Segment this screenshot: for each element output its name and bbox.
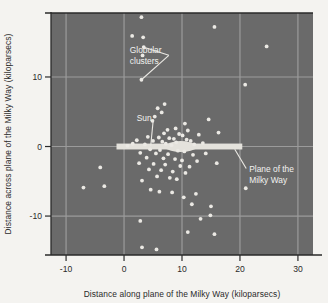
data-point	[147, 168, 151, 172]
data-point	[145, 156, 149, 160]
data-point	[175, 177, 179, 181]
data-point	[149, 188, 153, 192]
data-point	[180, 159, 184, 163]
data-point	[170, 191, 174, 195]
data-point	[167, 136, 171, 140]
data-point	[160, 140, 164, 144]
data-point	[160, 111, 164, 115]
data-point	[244, 186, 248, 190]
data-point	[156, 106, 160, 110]
data-point	[215, 161, 219, 165]
x-tick-label: 0	[122, 264, 127, 274]
data-point	[157, 190, 161, 194]
data-point	[199, 217, 203, 221]
data-point	[188, 165, 192, 169]
data-point	[163, 102, 167, 106]
data-point	[173, 157, 177, 161]
data-point	[183, 122, 187, 126]
data-point	[172, 137, 176, 141]
data-point	[140, 15, 144, 19]
data-point	[155, 175, 159, 179]
data-point	[213, 25, 217, 29]
data-point	[197, 133, 201, 137]
data-point	[98, 165, 102, 169]
x-tick-label: -10	[60, 264, 73, 274]
data-point	[155, 248, 159, 252]
data-point	[192, 143, 196, 147]
data-point	[158, 148, 162, 152]
plot-canvas: -100102030100-10Distance along plane of …	[0, 0, 328, 303]
data-point	[207, 117, 211, 121]
data-point	[148, 147, 152, 151]
x-tick-label: 30	[293, 264, 303, 274]
data-point	[162, 131, 166, 135]
data-point	[131, 142, 135, 146]
annotation-label: clusters	[130, 56, 159, 66]
data-point	[164, 142, 168, 146]
data-point	[174, 140, 178, 144]
y-axis-title: Distance across plane of the Milky Way (…	[3, 33, 13, 234]
data-point	[213, 232, 217, 236]
data-point	[182, 149, 186, 153]
x-tick-label: 20	[235, 264, 245, 274]
data-point	[166, 128, 170, 132]
data-point	[166, 152, 170, 156]
data-point	[171, 170, 175, 174]
data-point	[163, 163, 167, 167]
annotation-label: Sun	[137, 113, 152, 123]
y-tick-label: 10	[32, 72, 42, 82]
data-point	[154, 152, 158, 156]
data-point	[174, 127, 178, 131]
annotation-label: Milky Way	[249, 175, 288, 185]
annotation-label: Globular	[130, 45, 162, 55]
data-point	[201, 141, 205, 145]
data-point	[152, 162, 156, 166]
data-point	[186, 230, 190, 234]
data-point	[204, 152, 208, 156]
data-point	[140, 179, 144, 183]
data-point	[162, 156, 166, 160]
data-point	[102, 184, 106, 188]
data-point	[265, 44, 269, 48]
data-point	[209, 204, 213, 208]
data-point	[243, 83, 247, 87]
data-point	[181, 133, 185, 137]
data-point	[182, 195, 186, 199]
data-point	[177, 132, 181, 136]
data-point	[159, 168, 163, 172]
data-point	[143, 143, 147, 147]
data-point	[135, 138, 139, 142]
data-point	[191, 153, 195, 157]
data-point	[186, 129, 190, 133]
data-point	[185, 138, 189, 142]
data-point	[170, 143, 174, 147]
data-point	[168, 176, 172, 180]
data-point	[194, 192, 198, 196]
data-point	[189, 139, 193, 143]
data-point	[153, 115, 157, 119]
x-axis-title: Distance along plane of the Milky Way (k…	[84, 289, 281, 299]
data-point	[126, 144, 130, 148]
data-point	[141, 35, 145, 39]
data-point	[82, 186, 86, 190]
y-tick-label: 0	[37, 142, 42, 152]
data-point	[138, 219, 142, 223]
data-point	[217, 131, 221, 135]
data-point	[190, 202, 194, 206]
data-point	[176, 149, 180, 153]
annotation-label: Plane of the	[249, 164, 294, 174]
data-point	[195, 159, 199, 163]
data-point	[146, 135, 150, 139]
data-point	[209, 213, 213, 217]
data-point	[140, 245, 144, 249]
data-point	[184, 171, 188, 175]
data-point	[138, 151, 142, 155]
data-point	[137, 161, 141, 165]
x-tick-label: 10	[177, 264, 187, 274]
data-point	[178, 164, 182, 168]
scatter-plot-figure: -100102030100-10Distance along plane of …	[0, 0, 328, 303]
y-tick-label: -10	[30, 211, 43, 221]
data-point	[157, 136, 161, 140]
data-point	[130, 34, 134, 38]
